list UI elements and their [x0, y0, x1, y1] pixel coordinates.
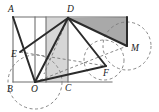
point-label-E: E: [10, 49, 17, 59]
point-label-C: C: [65, 83, 72, 93]
geometry-canvas: ADBOCEFM: [0, 0, 159, 112]
point-label-D: D: [66, 4, 74, 14]
point-label-A: A: [7, 4, 14, 14]
geometry-figure: ADBOCEFM: [0, 0, 159, 112]
point-label-O: O: [31, 84, 38, 94]
point-label-M: M: [130, 43, 140, 53]
triangle-D-O-vertical-light: [46, 18, 68, 82]
point-label-B: B: [7, 84, 13, 94]
point-label-F: F: [102, 68, 109, 78]
